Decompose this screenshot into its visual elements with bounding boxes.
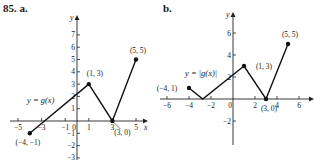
data-point — [87, 82, 91, 86]
y-tick-label: −3 — [67, 153, 75, 162]
x-tick-label: −6 — [163, 101, 171, 110]
point-label: (1, 3) — [256, 62, 273, 71]
y-tick-label: −2 — [67, 141, 75, 150]
function-label: y = |g(x)| — [184, 68, 217, 78]
x-tick-label: 6 — [297, 101, 301, 110]
charts-canvas: yx−5−3−101357654321−1−2−3(−4, −1)(1, 3)(… — [0, 0, 314, 165]
y-tick-label: 1 — [71, 104, 75, 113]
y-axis-arrow-icon — [75, 15, 80, 20]
x-tick-label: −4 — [185, 101, 193, 110]
x-tick-label: 0 — [228, 101, 232, 110]
data-point — [242, 64, 246, 68]
y-tick-label: 3 — [71, 80, 75, 89]
y-tick-label: 7 — [71, 30, 75, 39]
point-label: (−4, −1) — [15, 138, 40, 147]
data-point — [286, 42, 290, 46]
point-label: (1, 3) — [87, 69, 104, 78]
y-tick-label: 5 — [71, 55, 75, 64]
y-tick-label: −2 — [223, 117, 231, 126]
point-label: (−4, 1) — [157, 84, 178, 93]
point-label: (3, 0) — [114, 128, 131, 137]
x-tick-label: 1 — [87, 123, 91, 132]
x-axis-arrow-icon — [309, 97, 314, 102]
data-point — [187, 86, 191, 90]
y-axis-label: y — [225, 10, 230, 19]
x-tick-label: 5 — [134, 123, 138, 132]
y-tick-label: 6 — [227, 29, 231, 38]
y-axis-label: y — [69, 13, 74, 22]
data-point — [264, 97, 268, 101]
y-tick-label: 6 — [71, 43, 75, 52]
x-tick-label: −5 — [14, 123, 22, 132]
data-point — [134, 57, 138, 61]
point-label: (5, 5) — [130, 46, 147, 55]
data-point — [28, 131, 32, 135]
point-label: (3, 0) — [261, 104, 278, 113]
y-tick-label: 4 — [227, 51, 231, 60]
y-tick-label: −1 — [67, 129, 75, 138]
x-tick-label: 2 — [253, 101, 257, 110]
y-tick-label: 4 — [71, 67, 75, 76]
x-axis-label: x — [143, 123, 148, 132]
point-label: (5, 5) — [282, 30, 299, 39]
x-tick-label: −2 — [207, 101, 215, 110]
y-axis-arrow-icon — [231, 12, 236, 17]
function-label: y = g(x) — [26, 95, 55, 105]
x-tick-label: −3 — [38, 123, 46, 132]
